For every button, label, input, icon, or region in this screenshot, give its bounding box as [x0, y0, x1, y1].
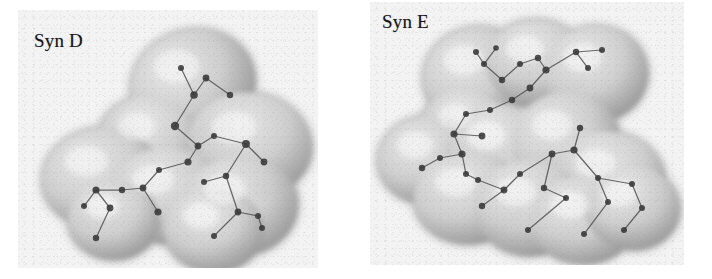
panel-syn-e: Syn E [370, 2, 684, 265]
panel-syn-d: Syn D [18, 10, 318, 268]
panel-label-syn-d: Syn D [34, 31, 83, 50]
panel-label-syn-e: Syn E [382, 12, 429, 31]
molecule-image-syn-e [370, 2, 684, 265]
figure-root: Syn D Syn E [0, 0, 712, 279]
